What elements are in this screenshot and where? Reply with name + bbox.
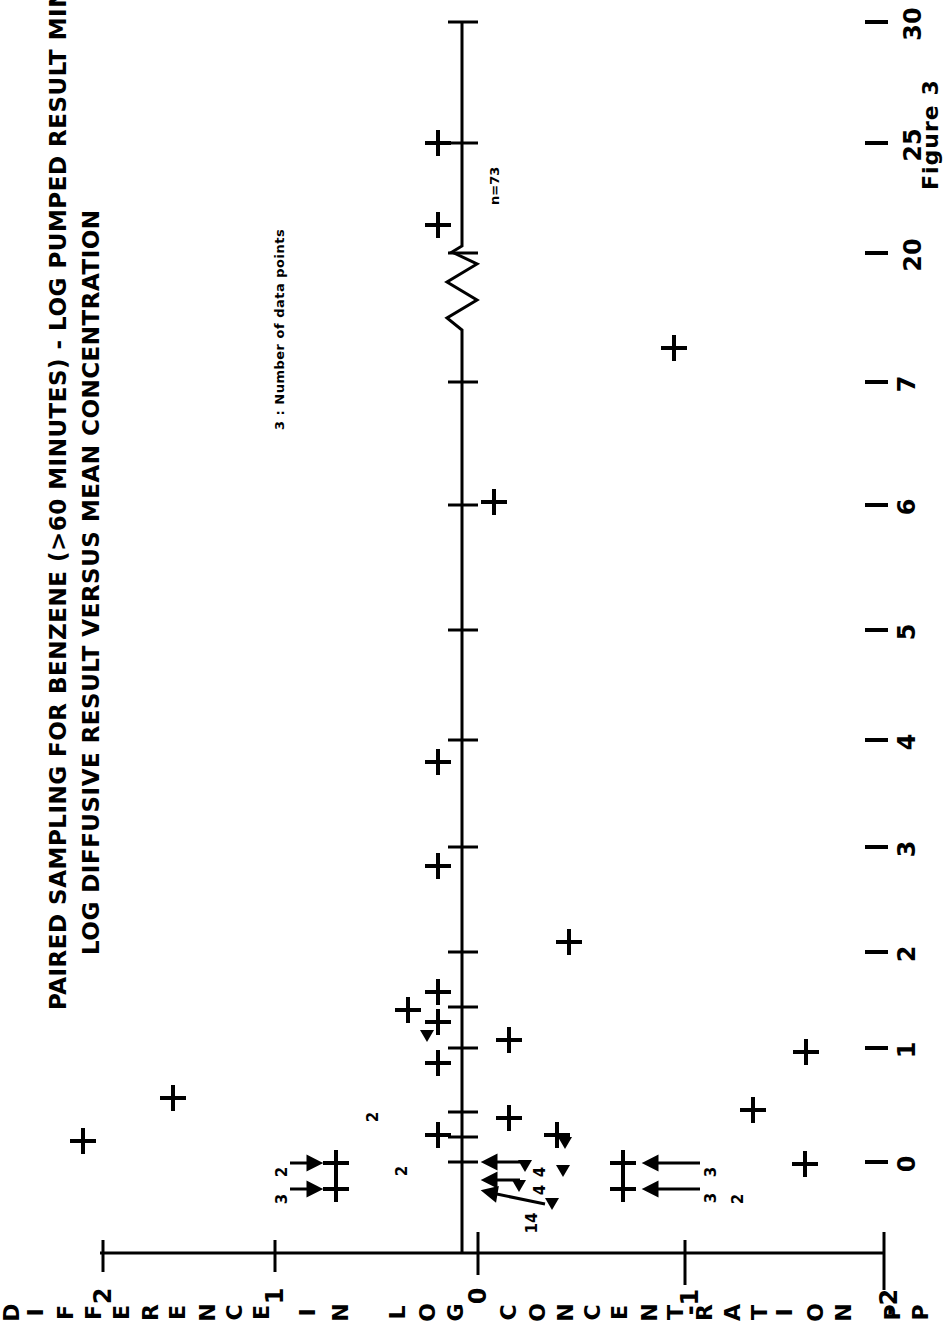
x-tick-label-4: 4	[893, 734, 921, 751]
x-tick-label-5: 5	[893, 624, 921, 641]
y-axis-label-char: C	[580, 1304, 605, 1320]
y-axis-label-char: A	[720, 1304, 745, 1321]
x-tick-label-7: 7	[893, 376, 921, 393]
concentration-axis	[447, 22, 477, 1253]
x-tick-label-0: 0	[893, 1156, 921, 1173]
x-tick-label-1: 1	[893, 1042, 921, 1059]
y-axis-label-char: F	[81, 1305, 106, 1320]
y-axis-label-char: P	[880, 1304, 905, 1320]
x-tick-label-6: 6	[893, 499, 921, 516]
cluster-count-label: 3	[702, 1167, 720, 1177]
y-axis-label-char: E	[249, 1305, 274, 1320]
y-axis-label-char: N	[328, 1303, 353, 1321]
cluster-count-label: 4	[531, 1167, 549, 1177]
y-axis-label-char: C	[496, 1304, 521, 1320]
y-axis-label-char: N	[637, 1303, 662, 1321]
y-axis-label-char: T	[747, 1305, 772, 1320]
cluster-count-label: 3	[273, 1194, 291, 1204]
cluster-count-label: 2	[393, 1166, 411, 1176]
y-axis-label-char: E	[607, 1305, 632, 1320]
y-axis-label-char: I	[23, 1308, 48, 1316]
y-axis-label-char: E	[109, 1305, 134, 1320]
y-axis-label-char: D	[0, 1303, 24, 1321]
y-axis-label-char: R	[138, 1304, 163, 1321]
y-axis-label: D I F F E R E N C E I N L O G C O N C E …	[0, 1300, 932, 1333]
cluster-count-label: 2	[364, 1112, 382, 1122]
y-axis-label-char: I	[295, 1308, 320, 1316]
y-axis-label-char: G	[443, 1303, 468, 1321]
value-axis	[100, 1232, 885, 1290]
cluster-count-label: 14	[523, 1213, 541, 1234]
x-tick-label-3: 3	[893, 841, 921, 858]
y-axis-label-char: T	[663, 1305, 688, 1320]
y-axis-label-char: O	[415, 1303, 440, 1322]
y-axis-label-char: F	[53, 1305, 78, 1320]
y-axis-label-char: O	[525, 1303, 550, 1322]
x-tick-label-25: 25	[899, 128, 927, 161]
x-tick-label-20: 20	[899, 238, 927, 271]
x-tick-label-2: 2	[893, 946, 921, 963]
cluster-count-label: 4	[531, 1185, 549, 1195]
y-axis-label-char: I	[772, 1308, 797, 1316]
y-axis-label-char: N	[831, 1303, 856, 1321]
cluster-count-label: 3	[702, 1193, 720, 1203]
y-axis-label-char: N	[553, 1303, 578, 1321]
y-axis-label-char: E	[165, 1305, 190, 1320]
y-axis-label-char: O	[803, 1303, 828, 1322]
cluster-count-label: 2	[273, 1167, 291, 1177]
y-axis-label-char: C	[222, 1304, 247, 1320]
y-axis-label-char: L	[385, 1305, 410, 1319]
cluster-count-label: 2	[729, 1194, 747, 1204]
x-tick-label-30: 30	[899, 7, 927, 40]
annotation-arrows	[290, 1156, 700, 1204]
outer-tick-marks	[865, 22, 888, 1162]
y-axis-label-char: N	[195, 1303, 220, 1321]
y-axis-label-char: R	[692, 1304, 717, 1321]
data-markers	[70, 130, 819, 1202]
y-axis-label-char: P	[908, 1304, 933, 1320]
